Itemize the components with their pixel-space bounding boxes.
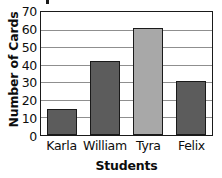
plot-area [40, 11, 213, 136]
x-tick-label-tyra: Tyra [127, 138, 170, 153]
x-axis-title: Students [40, 158, 213, 173]
bar-chart-figure: Number of Cards 70 60 50 40 30 20 10 0 K… [0, 0, 222, 178]
y-tick-label: 30 [22, 75, 37, 90]
y-tick-label: 20 [22, 93, 37, 108]
bar-felix [176, 81, 206, 135]
bar-william [90, 61, 120, 135]
x-axis-tick-labels: Karla William Tyra Felix [40, 138, 213, 153]
y-tick-label: 40 [22, 57, 37, 72]
x-tick-label-felix: Felix [170, 138, 213, 153]
y-tick-label: 60 [22, 21, 37, 36]
y-tick-label: 0 [29, 129, 37, 144]
y-tick-label: 10 [22, 111, 37, 126]
y-tick-label: 70 [22, 4, 37, 19]
bar-karla [47, 109, 77, 135]
bar-tyra [133, 28, 163, 135]
x-tick-label-william: William [83, 138, 127, 153]
clipped-title-fragment [46, 0, 49, 4]
y-axis-tick-labels: 70 60 50 40 30 20 10 0 [14, 11, 37, 136]
y-tick-label: 50 [22, 39, 37, 54]
x-tick-label-karla: Karla [40, 138, 83, 153]
bars-layer [41, 12, 212, 135]
